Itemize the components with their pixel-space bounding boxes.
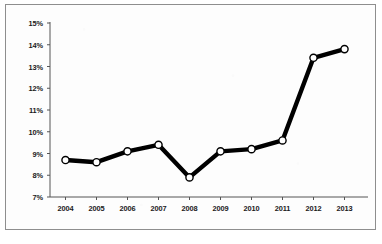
x-tick-label: 2005 <box>80 204 114 213</box>
y-tick-label: 14% <box>17 40 43 49</box>
x-tick-label: 2012 <box>297 204 331 213</box>
x-tick-label: 2004 <box>49 204 83 213</box>
x-tick-label: 2006 <box>111 204 145 213</box>
y-tick-label: 7% <box>17 193 43 202</box>
y-tick-label: 13% <box>17 62 43 71</box>
x-tick-label: 2009 <box>204 204 238 213</box>
chart-outer-frame <box>5 4 376 230</box>
y-tick-label: 8% <box>17 171 43 180</box>
x-tick-label: 2010 <box>235 204 269 213</box>
x-tick-label: 2011 <box>266 204 300 213</box>
y-tick-label: 12% <box>17 84 43 93</box>
x-tick-label: 2008 <box>173 204 207 213</box>
y-tick-label: 11% <box>17 106 43 115</box>
x-tick-label: 2013 <box>328 204 362 213</box>
y-tick-label: 10% <box>17 127 43 136</box>
x-tick-label: 2007 <box>142 204 176 213</box>
y-tick-label: 15% <box>17 19 43 28</box>
y-tick-label: 9% <box>17 149 43 158</box>
